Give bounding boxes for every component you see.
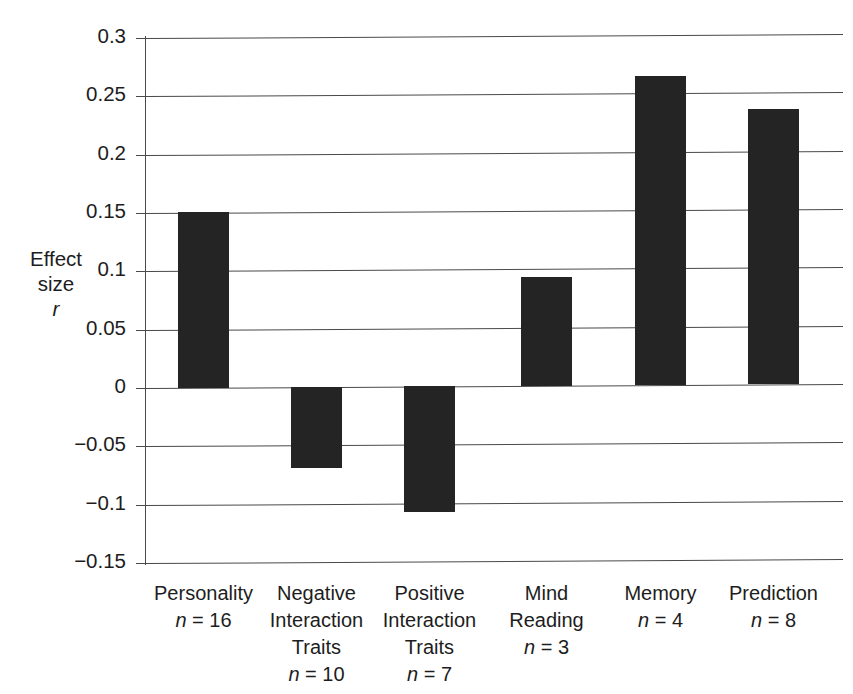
sample-size-label: n = 8 xyxy=(699,607,849,634)
y-tick-label-0.3: 0.3 xyxy=(16,24,126,48)
y-tick-0.1 xyxy=(136,271,145,272)
gridline-0.1 xyxy=(145,267,843,272)
gridline--0.1 xyxy=(145,501,843,506)
y-axis-title-line3: r xyxy=(0,296,112,321)
y-tick-label-0.25: 0.25 xyxy=(16,82,126,106)
category-name-line: Prediction xyxy=(699,580,849,607)
y-tick-0.15 xyxy=(136,213,145,214)
y-tick--0.15 xyxy=(136,563,145,564)
y-tick-label-0: 0 xyxy=(16,374,126,398)
gridline-0.15 xyxy=(145,209,843,214)
y-tick-0 xyxy=(136,388,145,389)
gridline--0.15 xyxy=(145,559,843,564)
gridline-0.2 xyxy=(145,151,843,156)
y-tick-label--0.1: −0.1 xyxy=(16,491,126,515)
sample-size-label: n = 7 xyxy=(355,661,505,688)
y-tick-0.05 xyxy=(136,330,145,331)
category-label-prediction: Predictionn = 8 xyxy=(699,580,849,634)
y-tick-0.25 xyxy=(136,96,145,97)
gridline-0.05 xyxy=(145,326,843,331)
y-axis-title-line1: Effect xyxy=(0,246,112,271)
bar-chart-figure: 0.30.250.20.150.10.050−0.05−0.1−0.15 Eff… xyxy=(0,0,853,694)
y-tick--0.05 xyxy=(136,446,145,447)
bar-negative-interaction-traits xyxy=(291,387,342,468)
gridline-0.3 xyxy=(145,34,843,39)
y-tick-label-0.15: 0.15 xyxy=(16,199,126,223)
bar-positive-interaction-traits xyxy=(404,386,455,512)
y-tick-label-0.2: 0.2 xyxy=(16,141,126,165)
y-axis-title-line2: size xyxy=(0,271,112,296)
bar-mind-reading xyxy=(521,277,572,386)
plot-area xyxy=(145,38,843,563)
y-axis-title: Effect size r xyxy=(0,246,112,321)
sample-size-label: n = 3 xyxy=(472,634,622,661)
y-tick-label--0.05: −0.05 xyxy=(16,432,126,456)
bar-memory xyxy=(635,76,686,385)
y-tick--0.1 xyxy=(136,505,145,506)
y-tick-0.3 xyxy=(136,38,145,39)
bar-personality xyxy=(178,212,229,388)
y-axis-line xyxy=(145,36,146,565)
gridline-0 xyxy=(145,384,843,389)
gridline-0.25 xyxy=(145,92,843,97)
gridline--0.05 xyxy=(145,442,843,447)
y-tick-label--0.15: −0.15 xyxy=(16,549,126,573)
bar-prediction xyxy=(748,109,799,384)
y-tick-0.2 xyxy=(136,155,145,156)
